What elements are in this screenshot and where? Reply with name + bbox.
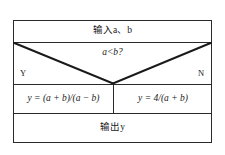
- output-step-label: 输出y: [13, 113, 212, 143]
- input-step-label: 输入a、b: [13, 20, 212, 42]
- branch-label-yes: Y: [20, 69, 26, 78]
- branch-label-no: N: [198, 69, 204, 78]
- flowchart-canvas: 输入a、b a<b? Y N y = (a + b)/(a − b) y = 4…: [0, 0, 225, 155]
- decision-condition-label: a<b?: [13, 42, 212, 64]
- branch-no-expression: y = 4/(a + b): [114, 84, 212, 113]
- branch-yes-expression: y = (a + b)/(a − b): [14, 84, 113, 113]
